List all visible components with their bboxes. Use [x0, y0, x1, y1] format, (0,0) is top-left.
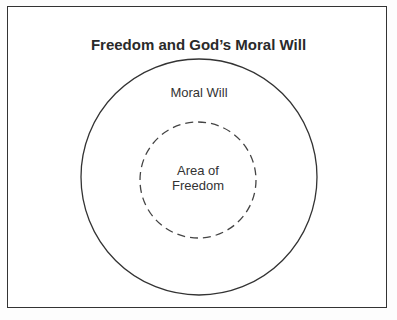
freedom-label-line2: Freedom — [148, 178, 248, 194]
moral-will-label: Moral Will — [149, 85, 249, 101]
circles — [0, 0, 397, 320]
freedom-label-line1: Area of — [148, 163, 248, 179]
